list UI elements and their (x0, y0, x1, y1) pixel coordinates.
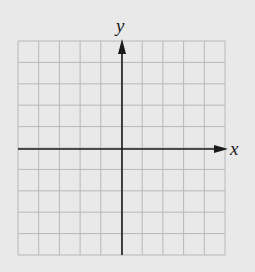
y-axis-label: y (114, 15, 125, 36)
coordinate-plane: x y (0, 0, 255, 272)
x-axis-arrow-icon (214, 145, 228, 153)
x-axis-label: x (229, 138, 239, 159)
